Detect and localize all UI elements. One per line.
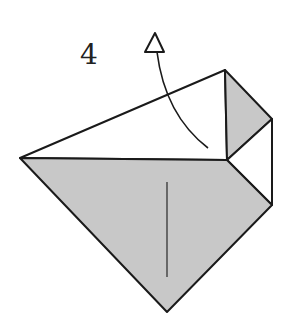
step-number: 4: [80, 38, 98, 71]
grey-main-body: [20, 158, 272, 312]
fold-arrow-head-icon: [145, 33, 164, 52]
origami-diagram: 4: [0, 0, 300, 322]
diagram-canvas: [0, 0, 300, 322]
white-top-flap: [20, 70, 227, 160]
